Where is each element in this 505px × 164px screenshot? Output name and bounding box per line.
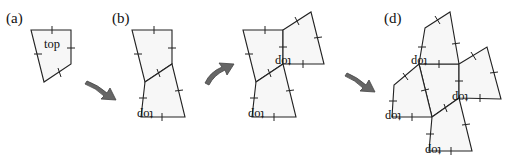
face-label: top [275, 55, 291, 69]
panel-label-d: (d) [384, 10, 402, 27]
panel-a: (a) top [6, 10, 75, 82]
face-label: top [425, 144, 441, 158]
panel-d: (d) top top top top [384, 10, 501, 158]
face-label: top [452, 91, 468, 105]
panel-label-a: (a) [6, 10, 23, 27]
face-label: top [137, 108, 153, 122]
curved-arrow-icon [205, 63, 234, 85]
panel-b: (b) top [112, 10, 185, 122]
panel-label-b: (b) [112, 10, 130, 27]
curved-arrow-icon [85, 81, 116, 100]
curved-arrow-icon [345, 73, 375, 92]
unfolding-diagram: (a) top (b) top [0, 0, 505, 164]
face-label: top [411, 55, 427, 69]
panel-c: top top [243, 12, 324, 122]
face-label: top [44, 37, 60, 51]
face-label: top [248, 108, 264, 122]
face-label: top [385, 110, 401, 124]
